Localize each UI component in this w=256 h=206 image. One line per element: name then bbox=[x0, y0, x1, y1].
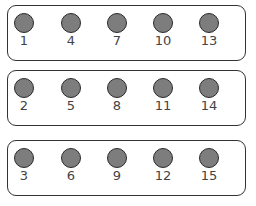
circle-icon bbox=[153, 13, 173, 33]
circle-icon bbox=[199, 78, 219, 98]
circle-label: 4 bbox=[56, 34, 86, 48]
circle-icon bbox=[107, 13, 127, 33]
circle-label: 15 bbox=[194, 169, 224, 183]
circle-label: 9 bbox=[102, 169, 132, 183]
group-box-1: 1471013 bbox=[7, 5, 246, 61]
circle-label: 13 bbox=[194, 34, 224, 48]
circle-icon bbox=[153, 148, 173, 168]
circle-label: 2 bbox=[9, 99, 39, 113]
circle-icon bbox=[199, 148, 219, 168]
circle-icon bbox=[14, 148, 34, 168]
circle-label: 1 bbox=[9, 34, 39, 48]
circle-label: 14 bbox=[194, 99, 224, 113]
circle-icon bbox=[61, 148, 81, 168]
circle-label: 7 bbox=[102, 34, 132, 48]
circle-icon bbox=[14, 78, 34, 98]
group-box-2: 2581114 bbox=[7, 70, 246, 126]
circle-icon bbox=[107, 78, 127, 98]
circle-label: 10 bbox=[148, 34, 178, 48]
circle-icon bbox=[153, 78, 173, 98]
circle-label: 3 bbox=[9, 169, 39, 183]
circle-label: 6 bbox=[56, 169, 86, 183]
circle-icon bbox=[107, 148, 127, 168]
circle-label: 11 bbox=[148, 99, 178, 113]
group-box-3: 3691215 bbox=[7, 140, 246, 196]
circle-icon bbox=[61, 78, 81, 98]
circle-label: 12 bbox=[148, 169, 178, 183]
circle-icon bbox=[61, 13, 81, 33]
circle-icon bbox=[14, 13, 34, 33]
circle-icon bbox=[199, 13, 219, 33]
circle-label: 8 bbox=[102, 99, 132, 113]
circle-label: 5 bbox=[56, 99, 86, 113]
